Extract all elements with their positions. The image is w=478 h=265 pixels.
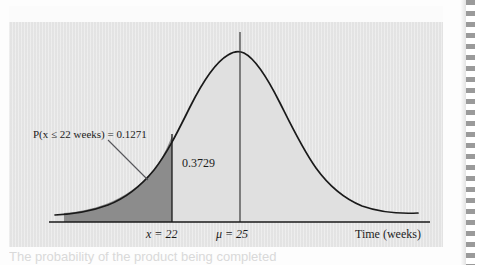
page-edge-strip [466, 0, 475, 265]
center-probability-label: 0.3729 [182, 156, 215, 171]
annotation-leader-line [108, 140, 148, 180]
clipped-caption: The probability of the product being com… [9, 252, 429, 265]
shaded-tail-region [64, 136, 172, 222]
clipped-caption-text: The probability of the product being com… [9, 252, 429, 264]
left-tail-probability-label: P(x ≤ 22 weeks) = 0.1271 [33, 128, 147, 140]
figure-root: P(x ≤ 22 weeks) = 0.1271 0.3729 x = 22 μ… [0, 0, 478, 265]
x-axis-title: Time (weeks) [355, 227, 421, 242]
x-value-tick-label: x = 22 [146, 227, 177, 242]
mean-tick-label: μ = 25 [216, 227, 248, 242]
